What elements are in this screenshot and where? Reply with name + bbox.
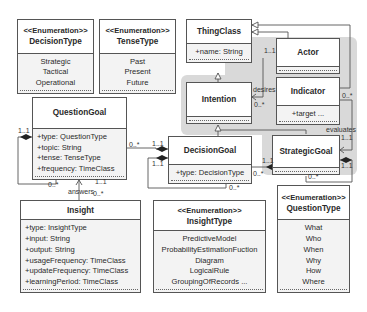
association-label-desires: desires: [253, 86, 276, 94]
enum-literal: Past: [104, 57, 171, 68]
enum-literals: PredictiveModel ProbabilityEstimationFuc…: [154, 230, 265, 292]
class-header: Intention: [187, 83, 251, 116]
multiplicity-label: 1..1: [262, 157, 274, 165]
association-label-evaluates: evaluates: [326, 126, 356, 134]
class-header: <<Enumeration>> TenseType: [100, 20, 175, 53]
class-name: ThingClass: [197, 26, 241, 37]
enum-literal: ProbabilityEstimationFuction: [158, 245, 261, 256]
class-indicator[interactable]: Indicator +target ...: [276, 77, 340, 125]
multiplicity-label: 0..*: [254, 101, 265, 109]
class-header: DecisionGoal: [169, 137, 251, 164]
attribute-list: [273, 167, 339, 174]
attribute: +type: InsightType: [25, 223, 136, 234]
class-header: Actor: [277, 39, 339, 66]
stereotype-label: <<Enumeration>>: [177, 205, 241, 216]
enum-literal: Strategic: [22, 57, 89, 68]
enum-literals: What Who When Why How Where: [278, 219, 349, 292]
class-decision-goal[interactable]: DecisionGoal +type: DecisionType: [168, 136, 252, 184]
attribute: +type: DecisionType: [173, 168, 247, 179]
multiplicity-label: 1..1: [264, 47, 276, 55]
attribute: +updateFrequency: TimeClass: [25, 266, 136, 277]
class-decision-type[interactable]: <<Enumeration>> DecisionType Strategic T…: [17, 19, 94, 94]
class-header: QuestionGoal: [33, 98, 126, 128]
multiplicity-label: 1..1: [152, 160, 164, 168]
enum-literal: Future: [104, 78, 171, 89]
attribute: +tense: TenseType: [37, 153, 122, 164]
class-name: DecisionType: [29, 36, 82, 47]
attribute: +learningPeriod: TimeClass: [25, 277, 136, 288]
multiplicity-label: 1..1: [95, 178, 107, 186]
stereotype-label: <<Enumeration>>: [23, 25, 87, 36]
multiplicity-label: 0..*: [229, 184, 240, 192]
attribute-list: [277, 66, 339, 73]
attribute: +type: QuestionType: [37, 132, 122, 143]
attribute: +output: String: [25, 245, 136, 256]
class-actor[interactable]: Actor: [276, 38, 340, 74]
attribute: +usageFrequency: TimeClass: [25, 256, 136, 267]
stereotype-label: <<Enumeration>>: [105, 25, 169, 36]
class-header: Insight: [21, 201, 140, 219]
enum-literal: What: [282, 223, 345, 234]
class-name: StrategicGoal: [279, 146, 332, 157]
enum-literal: PredictiveModel: [158, 234, 261, 245]
class-intention[interactable]: Intention: [186, 82, 252, 124]
class-name: DecisionGoal: [184, 145, 236, 156]
class-header: <<Enumeration>> DecisionType: [18, 20, 93, 53]
multiplicity-label: 0..*: [308, 173, 319, 181]
class-thing-class[interactable]: ThingClass +name: String: [186, 19, 252, 63]
multiplicity-label: 1..1: [152, 140, 164, 148]
class-header: ThingClass: [187, 20, 251, 43]
class-name: Intention: [202, 94, 237, 105]
enum-literal: Who: [282, 234, 345, 245]
enum-literal: Operational: [22, 78, 89, 89]
class-insight[interactable]: Insight +type: InsightType +input: Strin…: [20, 200, 141, 293]
class-header: <<Enumeration>> InsightType: [154, 201, 265, 230]
class-header: Indicator: [277, 78, 339, 105]
attribute-list: +type: QuestionType +topic: String +tens…: [33, 128, 126, 179]
class-name: Insight: [67, 205, 94, 216]
enum-literal: How: [282, 266, 345, 277]
class-tense-type[interactable]: <<Enumeration>> TenseType Past Present F…: [99, 19, 176, 94]
enum-literal: When: [282, 245, 345, 256]
attribute: +input: String: [25, 234, 136, 245]
class-header: <<Enumeration>> QuestionType: [278, 186, 349, 219]
association-label-answers: answers: [68, 188, 94, 196]
class-question-type[interactable]: <<Enumeration>> QuestionType What Who Wh…: [277, 185, 350, 293]
multiplicity-label: 0..*: [342, 92, 353, 100]
enum-literal: Where: [282, 277, 345, 288]
class-question-goal[interactable]: QuestionGoal +type: QuestionType +topic:…: [32, 97, 127, 180]
stereotype-label: <<Enumeration>>: [281, 192, 345, 203]
enum-literal: Why: [282, 256, 345, 267]
class-name: InsightType: [187, 216, 232, 227]
attribute-list: [187, 116, 251, 123]
enum-literal: Present: [104, 67, 171, 78]
enum-literal: Diagram: [158, 256, 261, 267]
class-name: Actor: [297, 47, 318, 58]
class-name: Indicator: [291, 86, 326, 97]
uml-diagram: <<Enumeration>> DecisionType Strategic T…: [0, 0, 367, 312]
attribute-list: +target ...: [277, 105, 339, 124]
multiplicity-label: 1..1: [18, 127, 30, 135]
multiplicity-label: 0..*: [48, 181, 59, 189]
enum-literal: Tactical: [22, 67, 89, 78]
enum-literal: GroupingOfRecords ...: [158, 277, 261, 288]
class-header: StrategicGoal: [273, 136, 339, 167]
class-name: QuestionType: [287, 203, 341, 214]
class-strategic-goal[interactable]: StrategicGoal: [272, 135, 340, 175]
class-name: TenseType: [117, 36, 159, 47]
multiplicity-label: 1..1: [341, 162, 353, 170]
enum-literal: LogicalRule: [158, 266, 261, 277]
attribute: +topic: String: [37, 143, 122, 154]
multiplicity-label: 0..*: [93, 190, 104, 198]
attribute-list: +name: String: [187, 43, 251, 62]
enum-literals: Strategic Tactical Operational: [18, 53, 93, 93]
attribute-list: +type: InsightType +input: String +outpu…: [21, 219, 140, 292]
multiplicity-label: 0..*: [129, 141, 140, 149]
class-name: QuestionGoal: [53, 107, 107, 118]
class-insight-type[interactable]: <<Enumeration>> InsightType PredictiveMo…: [153, 200, 266, 293]
multiplicity-label: 1..1: [341, 134, 353, 142]
attribute: +frequency: TimeClass: [37, 164, 122, 175]
attribute: +target ...: [281, 109, 335, 120]
multiplicity-label: 0..*: [253, 170, 264, 178]
attribute-list: +type: DecisionType: [169, 164, 251, 183]
